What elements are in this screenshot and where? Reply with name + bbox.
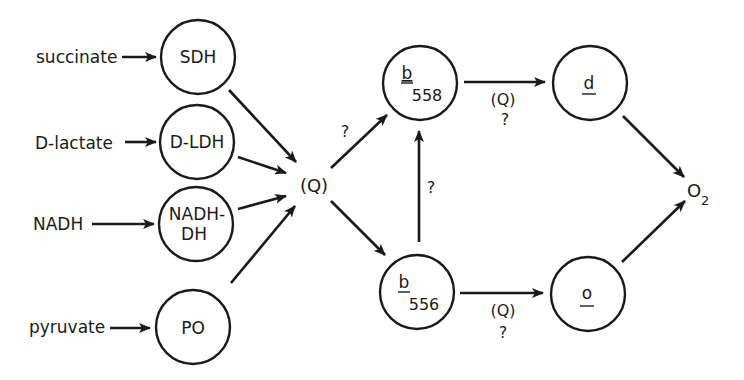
substrate-pyruvate: pyruvate (29, 317, 105, 337)
node-cyt-b558: b 558 (383, 46, 457, 120)
node-nadh-dh: NADH- DH (159, 187, 233, 261)
node-cyt-b558-subscript: 558 (412, 86, 443, 105)
node-cyt-b556: b 556 (380, 255, 454, 329)
node-oxidase-o-label: o (582, 283, 592, 303)
substrate-d-lactate: D-lactate (35, 133, 113, 153)
o2-subscript: 2 (701, 193, 709, 208)
node-d-ldh-label: D-LDH (170, 132, 225, 152)
node-sdh: SDH (161, 20, 235, 94)
edge-label-b558-to-d-bottom: ? (501, 110, 510, 129)
arrow-po-to-q (231, 206, 295, 283)
o2-base: O (687, 180, 701, 201)
node-nadh-dh-label-line2: DH (181, 224, 207, 244)
node-sdh-label: SDH (180, 47, 217, 67)
edge-label-q-to-b558: ? (341, 122, 350, 141)
quinone-pool-label: (Q) (300, 175, 328, 196)
edge-label-b556-to-b558: ? (427, 178, 436, 197)
node-oxidase-d-label: d (584, 73, 595, 93)
node-oxidase-d: d (553, 46, 627, 120)
node-oxidase-o: o (551, 257, 625, 331)
arrow-dldh-to-q (238, 157, 286, 173)
node-po: PO (156, 290, 230, 364)
arrow-q-to-b556 (331, 201, 385, 255)
edge-label-b558-to-d-top: (Q) (490, 90, 515, 109)
respiratory-chain-diagram: succinate D-lactate NADH pyruvate SDH D-… (0, 0, 744, 380)
arrow-d-to-o2 (623, 116, 684, 177)
node-d-ldh: D-LDH (160, 105, 234, 179)
node-cyt-b556-letter: b (399, 272, 410, 292)
arrow-nadhdh-to-q (238, 196, 286, 209)
edge-label-b556-to-o-bottom: ? (499, 323, 508, 342)
node-nadh-dh-label-line1: NADH- (169, 204, 225, 224)
node-cyt-b556-subscript: 556 (409, 295, 440, 314)
node-cyt-b558-letter: b (402, 63, 413, 83)
substrate-nadh: NADH (33, 214, 83, 234)
node-po-label: PO (181, 318, 205, 338)
substrate-succinate: succinate (36, 47, 117, 67)
terminal-acceptor-o2: O 2 (687, 180, 709, 208)
arrow-o-to-o2 (622, 201, 685, 262)
edge-label-b556-to-o-top: (Q) (490, 301, 515, 320)
arrow-sdh-to-q (229, 90, 296, 162)
arrow-q-to-b558 (331, 115, 387, 168)
